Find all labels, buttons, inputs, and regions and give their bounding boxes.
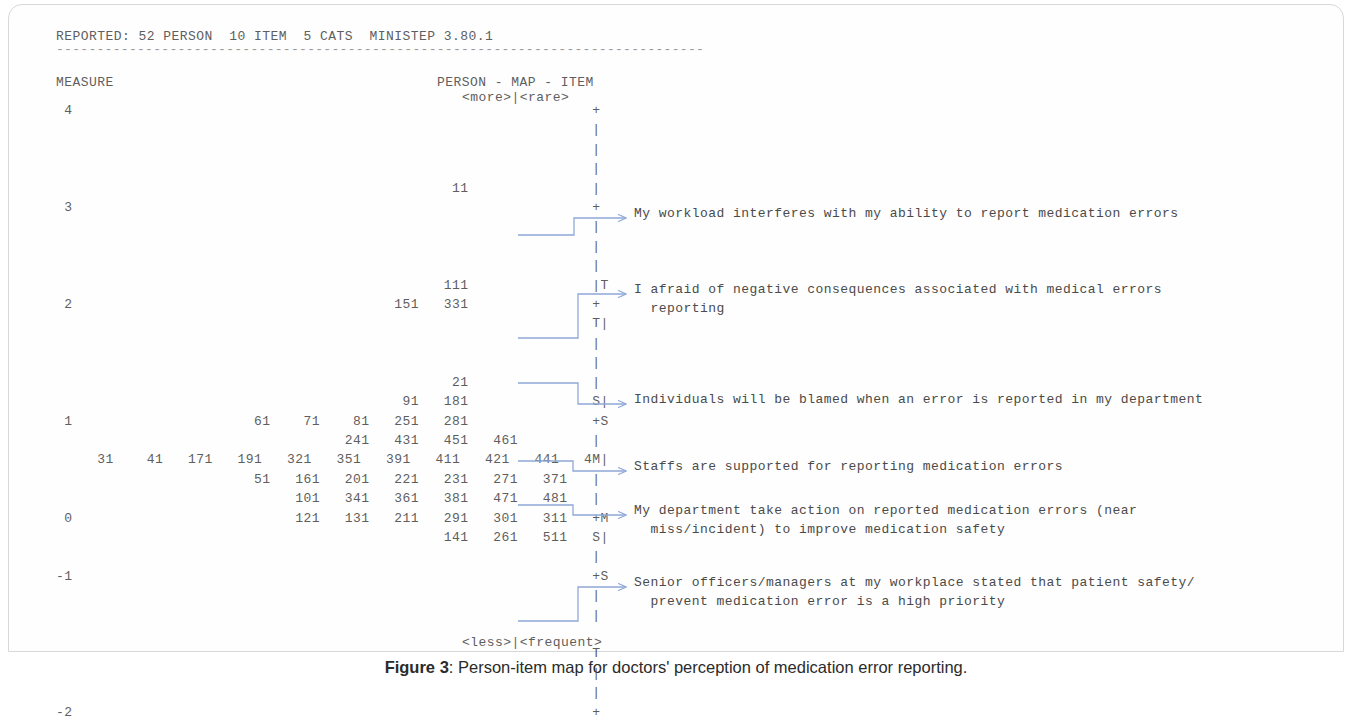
caption-text: Person-item map for doctors' perception … bbox=[458, 658, 967, 676]
person-item-map-grid: 4 + | | bbox=[56, 101, 609, 720]
header-rule: ----------------------------------------… bbox=[56, 40, 704, 59]
measure-column-header: MEASURE bbox=[56, 73, 114, 92]
item-label-item-staff-supported: Staffs are supported for reporting medic… bbox=[634, 457, 1063, 476]
item-label-item-senior-officers: Senior officers/managers at my workplace… bbox=[634, 573, 1195, 612]
item-label-item-workload: My workload interferes with my ability t… bbox=[634, 204, 1179, 223]
caption-separator: : bbox=[449, 658, 458, 676]
figure-caption: Figure 3: Person-item map for doctors' p… bbox=[0, 658, 1352, 677]
item-label-item-fear-consequences: I afraid of negative consequences associ… bbox=[634, 280, 1162, 319]
figure-number: Figure 3 bbox=[385, 658, 449, 676]
item-label-item-blamed: Individuals will be blamed when an error… bbox=[634, 390, 1203, 409]
item-label-item-department-action: My department take action on reported me… bbox=[634, 501, 1137, 540]
